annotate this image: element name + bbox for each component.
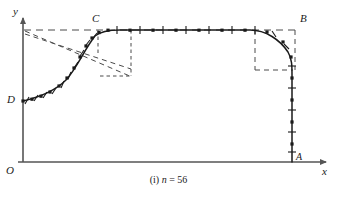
boundary-curve-path [23,30,292,162]
node-marker [265,30,268,33]
caption-variable: n [162,174,167,185]
caption-equals: = [169,174,175,185]
node-marker [290,76,293,79]
node-marker [290,98,293,101]
node-marker [97,31,100,34]
node-marker [290,120,293,123]
node-marker [174,29,177,32]
node-marker [106,29,109,32]
figure-canvas: y x O A B C D (i) n = 56 [0,0,337,197]
node-marker [128,29,131,32]
point-label-a: A [296,152,302,162]
figure-caption: (i) n = 56 [0,174,337,185]
y-axis-label: y [13,6,18,17]
node-marker [21,99,24,102]
node-marker [220,29,223,32]
node-marker [289,55,292,58]
node-marker [281,40,284,43]
node-marker [30,98,33,101]
caption-value: 56 [177,174,187,185]
tick-markers-group [25,26,296,152]
axis-group [18,18,326,162]
node-marker [290,142,293,145]
point-label-c: C [92,13,99,24]
caption-prefix: (i) [150,174,159,185]
node-marker [48,90,51,93]
node-marker [39,95,42,98]
node-marker [197,29,200,32]
boundary-curve-group [23,30,292,162]
node-marker [57,84,60,87]
node-marker [151,29,154,32]
figure-svg [0,0,337,197]
point-label-b: B [300,13,307,24]
point-label-d: D [7,94,15,105]
construction-lines-group [24,30,295,77]
node-marker [243,29,246,32]
diagonal-upper-dashed [25,31,132,77]
